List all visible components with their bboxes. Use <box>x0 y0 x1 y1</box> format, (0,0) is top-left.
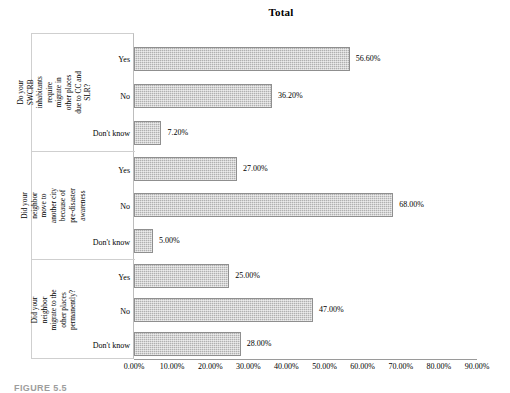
bar-g2-0 <box>134 264 229 288</box>
bar-value-label-g0-0: 56.60% <box>356 54 381 64</box>
question-group-1: Did your neighbor move to another city b… <box>32 151 135 259</box>
category-label-g1-no: No <box>70 202 130 212</box>
question-group-0: Do your SWCRB inhabitants require migrat… <box>32 34 135 151</box>
category-label-g2-no: No <box>70 307 130 317</box>
bar-value-label-g0-2: 7.20% <box>167 128 188 138</box>
x-tick-20: 20.00% <box>198 362 223 372</box>
bars-layer: 56.60%36.20%7.20%27.00%68.00%5.00%25.00%… <box>134 33 477 359</box>
category-label-column: Do your SWCRB inhabitants require migrat… <box>31 33 134 359</box>
chart-title-text: Total <box>268 6 293 18</box>
bar-value-label-g2-0: 25.00% <box>235 271 260 281</box>
chart-plot-area: Do your SWCRB inhabitants require migrat… <box>31 33 477 359</box>
x-tick-10: 10.00% <box>160 362 185 372</box>
bar-g1-0 <box>134 157 237 181</box>
bar-g1-1 <box>134 193 393 217</box>
category-label-g0-no: No <box>70 92 130 102</box>
bar-g0-1 <box>134 84 272 108</box>
bar-value-label-g1-0: 27.00% <box>243 164 268 174</box>
bar-g2-2 <box>134 332 241 356</box>
x-tick-0: 0.00% <box>124 362 145 372</box>
x-axis-line <box>134 359 477 360</box>
category-label-g1-dont-know: Don't know <box>70 238 130 248</box>
bar-g1-2 <box>134 229 153 253</box>
bar-value-label-g1-2: 5.00% <box>159 236 180 246</box>
x-tick-50: 50.00% <box>312 362 337 372</box>
category-label-g1-yes: Yes <box>70 166 130 176</box>
x-tick-60: 60.00% <box>350 362 375 372</box>
category-label-g2-yes: Yes <box>70 273 130 283</box>
bar-value-label-g2-1: 47.00% <box>319 305 344 315</box>
bar-g0-2 <box>134 121 161 145</box>
bar-g0-0 <box>134 47 350 71</box>
x-tick-30: 30.00% <box>236 362 261 372</box>
category-label-g2-dont-know: Don't know <box>70 341 130 351</box>
chart-title: Total <box>0 6 510 18</box>
x-tick-70: 70.00% <box>388 362 413 372</box>
x-tick-80: 80.00% <box>427 362 452 372</box>
x-axis-tick-labels: 0.00%10.00%20.00%30.00%40.00%50.00%60.00… <box>134 362 477 382</box>
bar-g2-1 <box>134 298 313 322</box>
figure-caption: FIGURE 5.5 <box>14 383 67 393</box>
bar-value-label-g2-2: 28.00% <box>247 339 272 349</box>
question-group-2: Did your neighbor migrate to the other p… <box>32 259 135 360</box>
x-tick-90: 90.00% <box>465 362 490 372</box>
category-label-g0-yes: Yes <box>70 55 130 65</box>
bar-value-label-g0-1: 36.20% <box>278 91 303 101</box>
x-tick-40: 40.00% <box>274 362 299 372</box>
category-label-g0-dont-know: Don't know <box>70 129 130 139</box>
bar-value-label-g1-1: 68.00% <box>399 200 424 210</box>
